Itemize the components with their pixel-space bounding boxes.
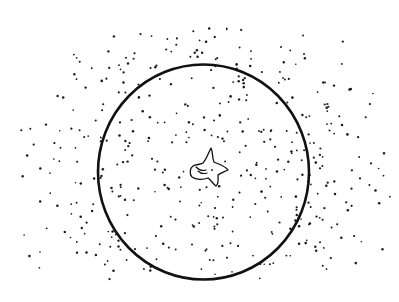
dot	[272, 233, 274, 235]
dot	[322, 265, 324, 267]
dot	[295, 63, 297, 65]
dot	[244, 145, 246, 147]
dot	[326, 110, 328, 112]
dot	[237, 80, 240, 83]
dot	[287, 161, 289, 163]
dot	[368, 184, 370, 186]
dot	[211, 135, 213, 137]
dot	[333, 133, 335, 135]
dot	[39, 167, 42, 170]
dot	[160, 225, 162, 227]
dot	[122, 161, 124, 163]
dot	[146, 247, 148, 249]
dot	[60, 147, 62, 149]
dot	[330, 257, 332, 259]
dot	[33, 143, 35, 145]
dot	[219, 102, 221, 104]
dot	[53, 142, 55, 144]
dot	[76, 241, 78, 243]
dot	[222, 217, 224, 219]
dot	[286, 130, 288, 132]
dot	[336, 223, 338, 225]
dot	[76, 202, 78, 204]
dot	[317, 193, 319, 195]
dot	[216, 57, 218, 59]
dot	[298, 225, 301, 228]
dot	[289, 49, 291, 51]
dot	[180, 186, 182, 188]
dot	[59, 130, 61, 132]
dot	[141, 110, 144, 113]
dot	[109, 246, 111, 248]
dot	[301, 159, 303, 161]
dot	[99, 177, 101, 179]
dot	[170, 216, 172, 218]
dot	[307, 202, 309, 204]
dot	[119, 249, 121, 251]
dot	[26, 154, 29, 157]
dot	[313, 142, 315, 144]
dot	[163, 184, 166, 187]
dot	[126, 259, 128, 261]
dot	[217, 136, 219, 138]
dot	[120, 186, 122, 188]
dot	[198, 222, 200, 224]
dot	[107, 231, 109, 233]
dot	[326, 103, 328, 105]
dot	[296, 214, 298, 216]
dot	[242, 82, 245, 85]
dot	[246, 94, 248, 96]
dot	[303, 53, 305, 55]
dot	[120, 195, 122, 197]
dot	[124, 232, 126, 234]
central-creature	[190, 148, 228, 186]
dot	[323, 207, 325, 209]
dot	[175, 134, 177, 136]
dot	[148, 137, 151, 140]
dot	[168, 188, 171, 191]
dot	[258, 130, 260, 132]
dot	[204, 249, 206, 251]
dot	[95, 254, 97, 256]
dot	[49, 192, 51, 194]
dot	[118, 91, 120, 93]
dot	[76, 252, 78, 254]
dot	[282, 77, 284, 79]
dot	[210, 69, 212, 71]
dot	[29, 128, 31, 130]
dot	[201, 52, 203, 54]
dot	[212, 87, 214, 89]
dot	[295, 209, 297, 211]
dot	[378, 202, 381, 205]
dot	[313, 157, 315, 159]
dot	[296, 178, 298, 180]
dot	[325, 107, 328, 110]
dot	[238, 98, 240, 100]
dot	[237, 245, 239, 247]
dot	[247, 118, 249, 120]
dot	[274, 146, 276, 148]
dot	[333, 84, 335, 86]
dot	[207, 215, 209, 217]
dot	[355, 262, 358, 265]
dot	[342, 40, 344, 42]
dot	[122, 71, 124, 73]
dot	[249, 65, 252, 68]
dot	[124, 149, 126, 151]
dot	[214, 273, 216, 275]
dot	[176, 112, 178, 114]
dot	[259, 278, 261, 280]
dot	[81, 227, 83, 229]
dot	[157, 122, 159, 124]
dot	[79, 129, 81, 131]
dot	[75, 147, 77, 149]
dot	[143, 268, 145, 270]
dot	[73, 73, 75, 75]
dot	[80, 182, 83, 185]
dot	[203, 116, 205, 118]
dot	[271, 231, 273, 233]
dot	[308, 115, 310, 117]
dot	[213, 228, 215, 230]
dot	[199, 189, 201, 191]
dot	[64, 231, 66, 233]
